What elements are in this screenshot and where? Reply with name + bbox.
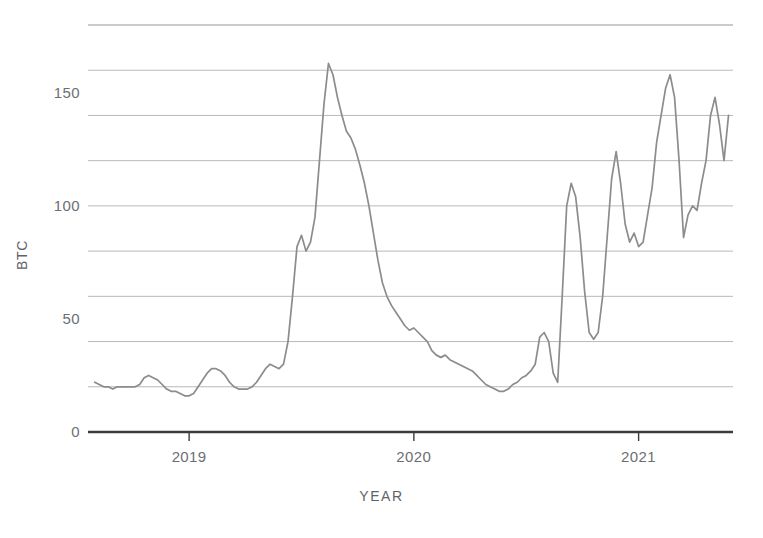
y-tick-label: 0 — [36, 423, 80, 440]
x-axis-ticks — [189, 432, 638, 441]
x-tick-label: 2019 — [149, 448, 229, 465]
y-tick-label: 100 — [36, 197, 80, 214]
x-axis-title: YEAR — [0, 488, 763, 504]
y-tick-label: 50 — [36, 310, 80, 327]
btc-series-line — [95, 63, 729, 395]
line-chart: 050100150 201920202021 BTC YEAR — [0, 0, 763, 538]
y-axis-title: BTC — [14, 215, 30, 295]
x-tick-label: 2021 — [599, 448, 679, 465]
gridlines — [88, 25, 733, 387]
x-tick-label: 2020 — [374, 448, 454, 465]
y-tick-label: 150 — [36, 84, 80, 101]
